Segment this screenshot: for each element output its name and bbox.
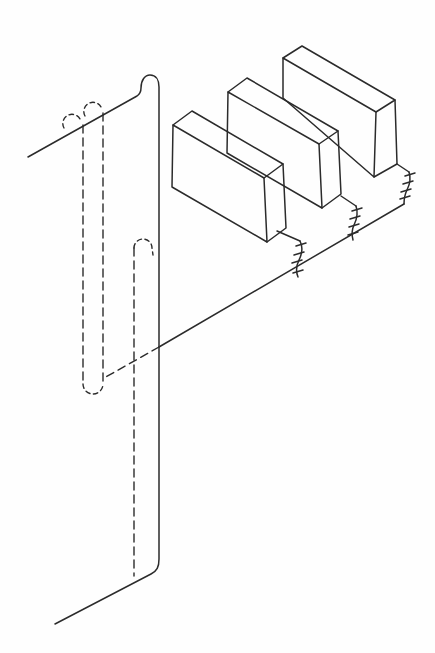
solid-edges-group	[28, 46, 410, 624]
block-3-front-face	[283, 58, 376, 177]
break-line-3-connector	[397, 164, 409, 172]
block-1-front-face	[172, 125, 267, 242]
drawing-page	[0, 0, 435, 653]
hidden-arcs-group	[63, 102, 153, 394]
break-line-2-connector	[341, 196, 356, 206]
break-line-1-connector	[277, 231, 300, 241]
hidden-edges-group	[83, 113, 159, 576]
plate-outline	[28, 75, 159, 624]
hidden-slot-right-top-bump	[84, 102, 101, 116]
patent-line-drawing	[0, 0, 435, 653]
block-1-side-face	[267, 164, 286, 242]
hidden-hem-top-arc	[134, 239, 153, 255]
block-2-side-face	[322, 131, 341, 208]
flange-front-edge	[159, 204, 404, 347]
hidden-slot-bottom-arc	[83, 384, 103, 394]
block-2-front-face	[227, 92, 322, 208]
break-line-3-squiggle	[404, 172, 410, 204]
hidden-flange-edge	[104, 347, 159, 378]
hidden-slot-left-top-bump	[63, 114, 80, 128]
block-3-top-face	[283, 46, 395, 112]
break-line-3-ticks	[400, 173, 415, 199]
